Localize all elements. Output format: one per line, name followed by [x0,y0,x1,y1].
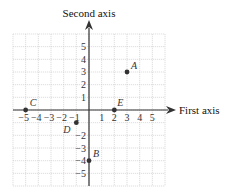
x-tick-label: −5 [18,112,29,123]
y-tick-label: 2 [81,79,86,90]
x-tick-label: 5 [150,112,155,123]
y-tick-label: −2 [75,130,86,141]
point-a-label: A [130,60,138,71]
point-a-marker [125,70,130,75]
coordinate-plane: First axis Second axis −5−4−3−2−112345 5… [0,0,230,195]
y-tick-label: −5 [75,168,86,179]
point-e-label: E [116,97,123,108]
x-tick-label: −2 [56,112,67,123]
point-e-marker [112,108,117,113]
point-d-marker [74,120,79,125]
point-d-label: D [62,124,71,135]
x-tick-labels: −5−4−3−2−112345 [18,112,155,123]
y-axis-title: Second axis [63,7,116,19]
y-tick-label: 1 [81,92,86,103]
point-c-label: C [30,97,37,108]
y-tick-label: −4 [75,155,86,166]
x-tick-label: −4 [31,112,42,123]
x-tick-label: −3 [44,112,55,123]
x-tick-label: 3 [125,112,130,123]
x-tick-label: 4 [137,112,142,123]
y-tick-label: 4 [81,54,86,65]
point-c-marker [23,108,28,113]
y-tick-label: −3 [75,143,86,154]
y-tick-label: 5 [81,41,86,52]
x-tick-label: 1 [99,112,104,123]
x-tick-label: 2 [112,112,117,123]
y-tick-label: 3 [81,66,86,77]
point-b-marker [87,158,92,163]
point-b-label: B [93,148,99,159]
x-axis-title: First axis [179,104,220,116]
